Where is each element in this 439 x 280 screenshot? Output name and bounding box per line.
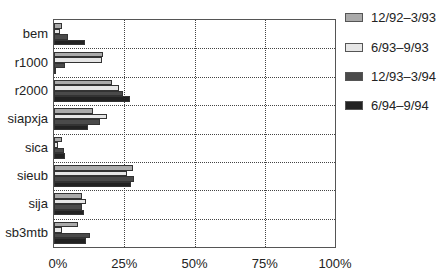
bar-r2000-series-4 (54, 96, 130, 102)
x-tick-label: 75% (252, 257, 278, 271)
gridline-horizontal (54, 134, 335, 135)
gridline-horizontal (54, 48, 335, 49)
category-label: sb3mtb (5, 226, 48, 240)
x-tick-label: 100% (318, 257, 351, 271)
legend-swatch (345, 72, 363, 81)
legend-label: 6/93–9/93 (371, 41, 429, 55)
plot-area (53, 19, 336, 248)
category-label: r2000 (15, 84, 48, 98)
gridline-horizontal (54, 162, 335, 163)
category-label: sieub (17, 169, 48, 183)
bar-sija-series-4 (54, 210, 84, 216)
category-label: siapxja (8, 112, 48, 126)
bar-sb3mtb-series-4 (54, 238, 86, 244)
x-tick-label: 25% (111, 257, 137, 271)
bar-r1000-series-4 (54, 68, 56, 74)
x-tick-label: 50% (181, 257, 207, 271)
category-label: sica (25, 141, 48, 155)
legend-swatch (345, 43, 363, 52)
gridline-horizontal (54, 105, 335, 106)
bar-sieub-series-4 (54, 182, 131, 188)
x-tick-label: 0% (49, 257, 68, 271)
legend-label: 12/92–3/93 (371, 11, 436, 25)
bar-chart: bemr1000r2000siapxjasicasieubsijasb3mtb … (0, 0, 439, 280)
bar-bem-series-4 (54, 40, 85, 46)
category-label: bem (23, 27, 48, 41)
bar-sica-series-4 (54, 153, 65, 159)
category-label: r1000 (15, 56, 48, 70)
legend-label: 6/94–9/94 (371, 99, 429, 113)
legend-swatch (345, 101, 363, 110)
bar-siapxja-series-4 (54, 125, 88, 131)
gridline-horizontal (54, 77, 335, 78)
gridline-horizontal (54, 219, 335, 220)
category-label: sija (28, 197, 48, 211)
legend-label: 12/93–3/94 (371, 70, 436, 84)
legend-swatch (345, 13, 363, 22)
gridline-horizontal (54, 190, 335, 191)
